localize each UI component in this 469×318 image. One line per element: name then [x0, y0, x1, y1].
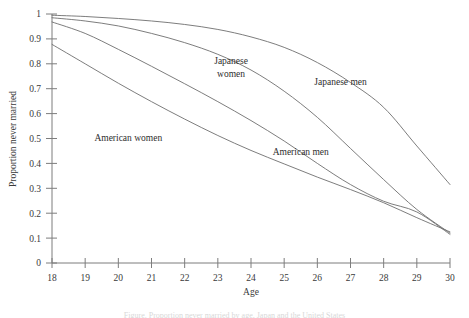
x-tick-label: 18	[47, 273, 57, 283]
x-tick-group: 18192021222324252627282930	[47, 258, 455, 283]
figure-caption: Figure. Proportion never married by age,…	[0, 311, 469, 318]
line-chart: 00.10.20.30.40.50.60.70.80.91 1819202122…	[0, 0, 469, 300]
y-axis: 00.10.20.30.40.50.60.70.80.91	[29, 9, 57, 268]
y-tick-label: 0.2	[29, 209, 41, 219]
y-tick-label: 0.8	[29, 59, 41, 69]
y-tick-label: 1	[36, 9, 41, 19]
series-label-american-men: American men	[273, 147, 329, 157]
series-curves	[52, 15, 450, 234]
y-tick-label: 0.1	[29, 234, 41, 244]
series-label-japanese-women: women	[217, 69, 245, 79]
x-axis-title: Age	[243, 287, 259, 297]
y-axis-title: Proportion never married	[8, 91, 18, 187]
x-tick-label: 28	[379, 273, 389, 283]
y-tick-label: 0.7	[29, 84, 41, 94]
series-label-japanese-men: Japanese men	[314, 77, 367, 87]
x-tick-label: 20	[114, 273, 124, 283]
series-label-american-women: American women	[94, 133, 162, 143]
series-line-japanese-men	[52, 15, 450, 184]
x-tick-label: 23	[213, 273, 223, 283]
x-tick-label: 30	[445, 273, 455, 283]
x-tick-label: 27	[346, 273, 356, 283]
x-tick-label: 21	[147, 273, 157, 283]
series-line-american-men	[52, 22, 450, 234]
x-axis: 18192021222324252627282930	[47, 258, 455, 283]
y-tick-label: 0.6	[29, 109, 41, 119]
y-tick-group: 00.10.20.30.40.50.60.70.80.91	[29, 9, 57, 268]
figure-container: 00.10.20.30.40.50.60.70.80.91 1819202122…	[0, 0, 469, 318]
y-tick-label: 0.9	[29, 34, 41, 44]
x-tick-label: 25	[279, 273, 289, 283]
series-line-japanese-women	[52, 18, 450, 233]
x-tick-label: 29	[412, 273, 422, 283]
x-tick-label: 19	[80, 273, 90, 283]
x-tick-label: 26	[313, 273, 323, 283]
series-label-japanese-women: Japanese	[214, 56, 248, 66]
y-tick-label: 0	[36, 258, 41, 268]
x-tick-label: 22	[180, 273, 190, 283]
y-tick-label: 0.3	[29, 184, 41, 194]
y-tick-label: 0.4	[29, 159, 41, 169]
x-tick-label: 24	[246, 273, 256, 283]
y-tick-label: 0.5	[29, 134, 41, 144]
